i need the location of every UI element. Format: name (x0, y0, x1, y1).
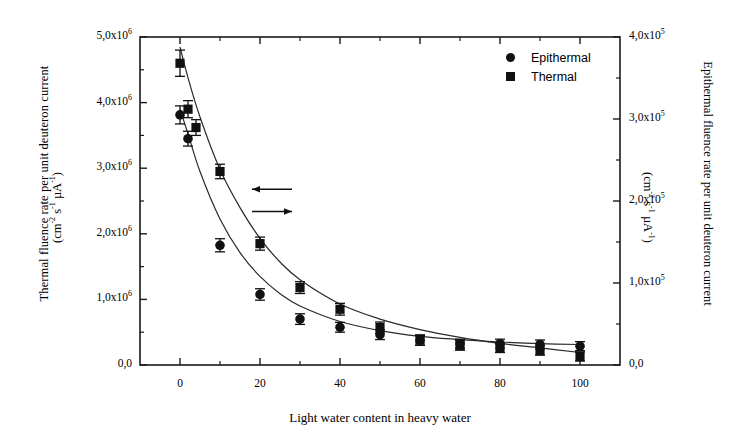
x-axis-tick-label: 20 (230, 377, 290, 389)
x-axis-tick-label: 0 (150, 377, 210, 389)
data-point-epithermal (335, 322, 345, 332)
x-axis-tick-label: 100 (550, 377, 610, 389)
y-axis-left-tick-label: 4,0x106 (96, 95, 132, 107)
data-point-epithermal (535, 340, 545, 350)
data-point-epithermal (215, 240, 225, 250)
fit-curve-right (180, 109, 580, 344)
y-axis-right-tick-label: 4,0x105 (629, 29, 665, 41)
data-point-epithermal (575, 341, 585, 351)
data-point-epithermal (455, 339, 465, 349)
fit-curve-left (180, 47, 580, 353)
y-axis-right-tick-label: 2,0x105 (629, 193, 665, 205)
x-axis-tick-label: 80 (470, 377, 530, 389)
data-point-epithermal (295, 314, 305, 324)
x-axis-tick-label: 60 (390, 377, 450, 389)
data-point-epithermal (375, 330, 385, 340)
x-axis-tick-label: 40 (310, 377, 370, 389)
data-point-epithermal (255, 290, 265, 300)
data-point-thermal (575, 352, 584, 361)
data-point-thermal (215, 167, 224, 176)
arrow-to-right-axis-head (284, 208, 292, 214)
arrow-to-left-axis-head (252, 186, 260, 192)
data-point-thermal (175, 59, 184, 68)
plot-canvas (0, 0, 738, 441)
y-axis-left-tick-label: 3,0x106 (96, 160, 132, 172)
y-axis-left-tick-label: 2,0x106 (96, 226, 132, 238)
y-axis-right-tick-label: 3,0x105 (629, 111, 665, 123)
data-point-epithermal (175, 110, 185, 120)
data-point-epithermal (495, 339, 505, 349)
y-axis-left-tick-label: 1,0x106 (96, 291, 132, 303)
chart-figure: Thermal fluence rate per unit deuteron c… (0, 0, 738, 441)
data-point-epithermal (183, 134, 193, 144)
data-point-thermal (335, 305, 344, 314)
y-axis-right-tick-label: 1,0x105 (629, 275, 665, 287)
data-point-epithermal (415, 336, 425, 346)
y-axis-right-tick-label: 0,0 (629, 357, 643, 369)
y-axis-left-tick-label: 0,0 (118, 357, 132, 369)
data-point-thermal (255, 239, 264, 248)
data-point-thermal (295, 283, 304, 292)
y-axis-left-tick-label: 5,0x106 (96, 29, 132, 41)
